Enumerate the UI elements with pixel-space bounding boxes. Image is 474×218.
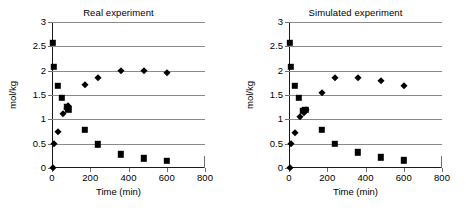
y-axis-tick-label: 1 — [41, 115, 46, 125]
y-axis-tick-label: 2.5 — [33, 42, 46, 52]
data-point-square — [287, 64, 293, 70]
gridline-y — [52, 95, 205, 96]
x-axis-tick-label: 800 — [197, 173, 213, 183]
data-point-square — [296, 95, 302, 101]
y-axis-tick — [285, 95, 289, 96]
y-axis-tick — [48, 22, 52, 23]
y-axis-tick — [285, 46, 289, 47]
gridline-y — [52, 71, 205, 72]
data-point-square — [95, 141, 101, 147]
y-axis-tick-label: 2.5 — [270, 42, 283, 52]
data-point-square — [82, 126, 88, 132]
panel-title-simulated: Simulated experiment — [237, 7, 474, 18]
x-axis-title-real: Time (min) — [0, 186, 237, 197]
gridline-y — [52, 22, 205, 23]
y-axis-tick-label: 1 — [278, 115, 283, 125]
y-axis-tick — [48, 119, 52, 120]
gridline-y — [289, 22, 442, 23]
data-point-square — [319, 126, 325, 132]
data-point-square — [55, 83, 61, 89]
data-point-square — [332, 140, 338, 146]
y-axis-tick — [48, 46, 52, 47]
y-axis-tick-label: 1.5 — [33, 90, 46, 100]
panel-title-real: Real experiment — [0, 7, 237, 18]
gridline-y — [289, 95, 442, 96]
gridline-y — [52, 46, 205, 47]
x-axis-tick-label: 800 — [434, 173, 450, 183]
x-axis-tick-label: 200 — [82, 173, 98, 183]
data-point-square — [49, 40, 55, 46]
data-point-square — [378, 154, 384, 160]
y-axis-tick — [285, 71, 289, 72]
y-axis-tick-label: 0.5 — [270, 139, 283, 149]
data-point-square — [50, 64, 56, 70]
gridline-y — [289, 119, 442, 120]
data-point-square — [118, 151, 124, 157]
y-axis-tick-label: 3 — [41, 17, 46, 27]
chart-panel-simulated: Simulated experiment mol/kg Time (min) 0… — [237, 0, 474, 218]
y-axis-tick-label: 0.5 — [33, 139, 46, 149]
y-axis-tick-label: 0 — [41, 163, 46, 173]
data-point-square — [286, 40, 292, 46]
y-axis-tick-label: 1.5 — [270, 90, 283, 100]
x-axis-tick-label: 200 — [319, 173, 335, 183]
gridline-y — [289, 144, 442, 145]
y-axis-tick-label: 2 — [41, 66, 46, 76]
plot-area-simulated: 00.511.522.530200400600800 — [289, 22, 442, 168]
gridline-y — [52, 119, 205, 120]
x-axis-tick-label: 0 — [49, 173, 54, 183]
chart-panel-real: Real experiment mol/kg Time (min) 00.511… — [0, 0, 237, 218]
x-axis-tick-label: 400 — [121, 173, 137, 183]
y-axis-tick — [48, 71, 52, 72]
gridline-y — [289, 46, 442, 47]
y-axis-tick — [48, 95, 52, 96]
y-axis-title-simulated: mol/kg — [239, 22, 261, 168]
data-point-square — [59, 95, 65, 101]
y-axis-tick-label: 3 — [278, 17, 283, 27]
plot-area-real: 00.511.522.530200400600800 — [52, 22, 205, 168]
y-axis-title-real: mol/kg — [2, 22, 24, 168]
data-point-square — [164, 157, 170, 163]
data-point-square — [141, 155, 147, 161]
x-axis-end-tick — [204, 156, 205, 168]
y-axis-tick — [285, 119, 289, 120]
y-axis-tick-label: 0 — [278, 163, 283, 173]
gridline-y — [289, 71, 442, 72]
data-point-square — [292, 83, 298, 89]
y-axis-tick-label: 2 — [278, 66, 283, 76]
x-axis-title-simulated: Time (min) — [237, 186, 474, 197]
data-point-square — [355, 149, 361, 155]
y-axis-tick — [285, 22, 289, 23]
x-axis-tick-label: 0 — [286, 173, 291, 183]
x-axis-tick-label: 400 — [358, 173, 374, 183]
x-axis-tick-label: 600 — [159, 173, 175, 183]
gridline-y — [52, 144, 205, 145]
x-axis-end-tick — [441, 156, 442, 168]
x-axis-tick-label: 600 — [396, 173, 412, 183]
two-panel-scatter-figure: Real experiment mol/kg Time (min) 00.511… — [0, 0, 474, 218]
data-point-square — [401, 157, 407, 163]
